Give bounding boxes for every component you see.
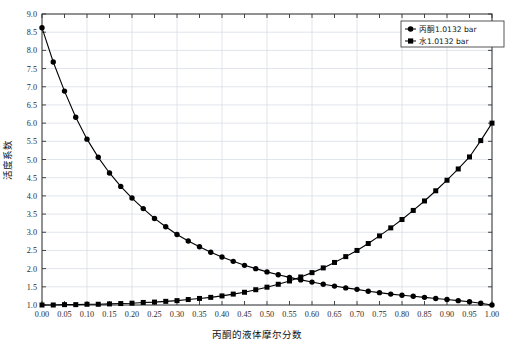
chart-container: 0.000.050.100.150.200.250.300.350.400.45… [0,0,513,344]
data-point-marker [40,303,45,308]
x-tick-label: 0.80 [395,310,409,319]
data-point-marker [242,290,247,295]
activity-coefficient-chart: 0.000.050.100.150.200.250.300.350.400.45… [0,0,513,344]
x-tick-label: 0.30 [170,310,184,319]
y-tick-label: 3.5 [27,210,37,219]
legend-marker-circle [408,26,414,32]
data-point-marker [73,115,78,120]
data-point-marker [321,265,326,270]
data-point-marker [343,254,348,259]
data-point-marker [152,300,157,305]
x-tick-label: 0.95 [462,310,476,319]
data-point-marker [310,270,315,275]
y-tick-label: 3.0 [27,228,37,237]
data-point-marker [265,285,270,290]
data-point-marker [129,195,134,200]
data-point-marker [174,232,179,237]
x-tick-labels: 0.000.050.100.150.200.250.300.350.400.45… [35,310,499,319]
y-tick-label: 6.0 [27,119,37,128]
data-point-marker [433,188,438,193]
data-point-marker [388,291,393,296]
y-tick-label: 7.0 [27,83,37,92]
chart-background [0,0,513,344]
y-tick-label: 1.5 [27,283,37,292]
data-point-marker [276,272,281,277]
y-tick-label: 6.5 [27,101,37,110]
data-point-marker [433,296,438,301]
data-point-marker [130,301,135,306]
y-tick-label: 1.0 [27,301,37,310]
chart-legend[interactable]: 丙酮1.0132 bar水1.0132 bar [401,21,504,47]
y-tick-label: 5.0 [27,156,37,165]
data-point-marker [84,136,89,141]
data-point-marker [422,295,427,300]
data-point-marker [208,295,213,300]
data-point-marker [377,233,382,238]
data-point-marker [163,224,168,229]
data-point-marker [366,241,371,246]
data-point-marker [264,269,269,274]
y-tick-label: 2.0 [27,265,37,274]
x-tick-label: 0.00 [35,310,49,319]
data-point-marker [445,178,450,183]
data-point-marker [411,294,416,299]
data-point-marker [400,217,405,222]
data-point-marker [96,155,101,160]
data-point-marker [220,293,225,298]
data-point-marker [444,297,449,302]
y-tick-label: 9.0 [27,10,37,19]
data-point-marker [141,206,146,211]
data-point-marker [456,298,461,303]
data-point-marker [186,297,191,302]
data-point-marker [467,154,472,159]
legend-label: 丙酮1.0132 bar [419,25,477,34]
data-point-marker [355,248,360,253]
data-point-marker [366,288,371,293]
data-point-marker [377,290,382,295]
x-tick-label: 0.40 [215,310,229,319]
y-axis-title: 活度系数 [2,140,13,180]
data-point-marker [107,170,112,175]
data-point-marker [388,225,393,230]
x-tick-label: 0.70 [350,310,364,319]
y-tick-label: 8.0 [27,46,37,55]
x-tick-label: 0.05 [57,310,71,319]
data-point-marker [332,283,337,288]
data-point-marker [141,300,146,305]
data-point-marker [242,263,247,268]
data-point-marker [489,302,494,307]
data-point-marker [51,303,56,308]
data-point-marker [276,282,281,287]
x-tick-label: 1.00 [485,310,499,319]
y-tick-labels: 1.01.52.02.53.03.54.04.55.05.56.06.57.07… [27,10,37,310]
x-tick-label: 0.60 [305,310,319,319]
data-point-marker [399,292,404,297]
data-point-marker [73,302,78,307]
legend-label: 水1.0132 bar [419,36,469,46]
legend-marker-square [408,38,413,43]
data-point-marker [163,299,168,304]
data-point-marker [51,59,56,64]
x-tick-label: 0.10 [80,310,94,319]
data-point-marker [478,300,483,305]
data-point-marker [96,302,101,307]
data-point-marker [175,298,180,303]
y-tick-label: 7.5 [27,65,37,74]
data-point-marker [456,166,461,171]
data-point-marker [287,278,292,283]
x-tick-label: 0.35 [192,310,206,319]
data-point-marker [118,301,123,306]
data-point-marker [253,266,258,271]
x-tick-label: 0.15 [102,310,116,319]
data-point-marker [298,274,303,279]
data-point-marker [219,254,224,259]
data-point-marker [62,302,67,307]
x-axis-title: 丙酮的液体摩尔分数 [212,329,302,340]
x-tick-label: 0.55 [282,310,296,319]
x-tick-label: 0.50 [260,310,274,319]
x-tick-label: 0.85 [417,310,431,319]
y-tick-label: 4.5 [27,174,37,183]
data-point-marker [467,299,472,304]
data-point-marker [208,250,213,255]
data-point-marker [39,25,44,30]
